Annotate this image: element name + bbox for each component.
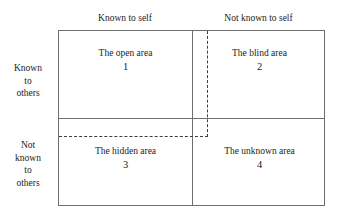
quadrant-title: The unknown area [224, 145, 295, 157]
column-header-not-known-to-self: Not known to self [192, 13, 325, 24]
quadrant-title: The hidden area [95, 145, 156, 157]
row-label-line: others [0, 177, 56, 190]
dashed-horizontal-boundary-line [59, 136, 208, 137]
row-label-line: Known [0, 62, 56, 75]
row-label-line: Not [0, 139, 56, 152]
row-label-not-known-to-others: Not known to others [0, 139, 56, 189]
row-label-known-to-others: Known to others [0, 62, 56, 100]
quadrant-number: 1 [123, 60, 128, 73]
quadrant-unknown-area: The unknown area 4 [193, 119, 326, 206]
quadrant-number: 2 [257, 60, 262, 73]
quadrant-blind-area: The blind area 2 [193, 31, 326, 118]
dashed-vertical-boundary-line [207, 31, 208, 137]
quadrant-title: The blind area [232, 47, 287, 59]
quadrant-number: 3 [123, 158, 128, 171]
johari-window-figure: Known to self Not known to self Known to… [0, 0, 341, 216]
quadrant-open-area: The open area 1 [59, 31, 192, 118]
row-label-line: to [0, 75, 56, 88]
row-label-line: to [0, 164, 56, 177]
quadrant-number: 4 [257, 158, 262, 171]
johari-grid: The open area 1 The blind area 2 The hid… [58, 30, 325, 206]
column-header-known-to-self: Known to self [58, 13, 192, 24]
row-label-line: known [0, 152, 56, 165]
quadrant-hidden-area: The hidden area 3 [59, 119, 192, 206]
quadrant-title: The open area [99, 47, 153, 59]
row-label-line: others [0, 87, 56, 100]
